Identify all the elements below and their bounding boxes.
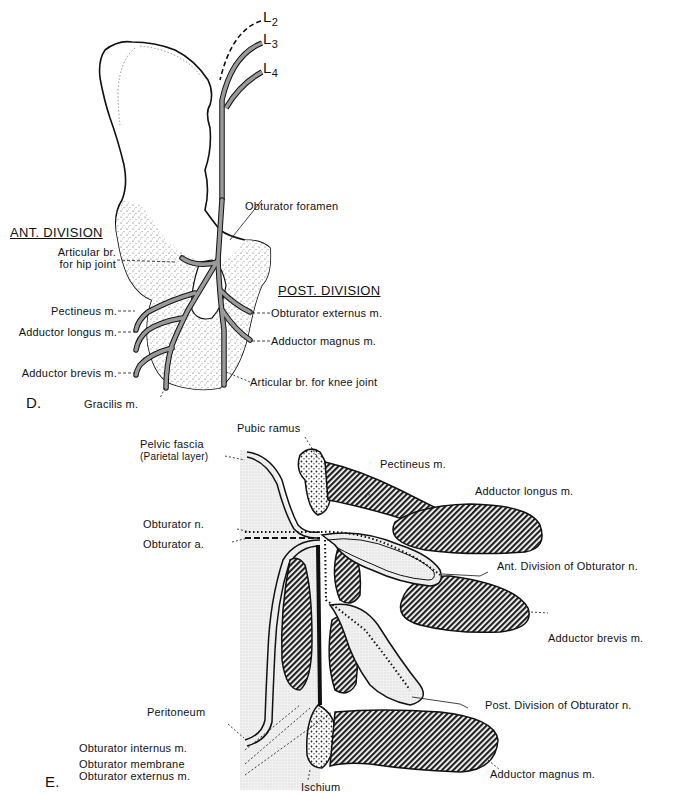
obturator-artery-label: Obturator a. <box>143 538 204 550</box>
articular-knee-branch-label: Articular br. for knee joint <box>250 376 377 388</box>
gracilis-branch-label: Gracilis m. <box>84 398 138 410</box>
ischium-label: Ischium <box>301 781 340 793</box>
root-l4-label: L4 <box>263 62 278 79</box>
root-l2-label: L2 <box>263 11 278 28</box>
obturator-externus-branch-label: Obturator externus m. <box>271 307 382 319</box>
ant-division-obturator-label: Ant. Division of Obturator n. <box>497 560 638 572</box>
post-division-obturator-label: Post. Division of Obturator n. <box>485 699 632 711</box>
panel-e-label: E. <box>45 776 60 788</box>
articular-hip-label-line2: for hip joint <box>39 258 116 270</box>
obturator-nerve-label: Obturator n. <box>143 518 204 530</box>
panel-d-label: D. <box>26 397 41 409</box>
adductor-brevis-label: Adductor brevis m. <box>548 632 643 644</box>
pelvic-fascia-label-line2: (Parietal layer) <box>140 451 208 463</box>
pectineus-label: Pectineus m. <box>380 458 446 470</box>
pectineus-branch-label: Pectineus m. <box>10 305 117 317</box>
adductor-brevis-branch-label: Adductor brevis m. <box>5 367 117 379</box>
adductor-longus-branch-label: Adductor longus m. <box>5 326 117 338</box>
obturator-externus-label: Obturator externus m. <box>79 770 190 782</box>
pelvic-fascia-label-line1: Pelvic fascia <box>140 438 204 450</box>
obturator-foramen-label: Obturator foramen <box>245 200 338 212</box>
obturator-membrane-label: Obturator membrane <box>79 758 185 770</box>
ant-division-heading: ANT. DIVISION <box>10 227 103 239</box>
root-l3-label: L3 <box>263 33 278 50</box>
adductor-magnus-label: Adductor magnus m. <box>490 768 595 780</box>
obturator-internus-label: Obturator internus m. <box>79 742 187 754</box>
adductor-magnus-branch-label: Adductor magnus m. <box>271 335 376 347</box>
pubic-ramus-label: Pubic ramus <box>237 422 300 434</box>
anatomy-illustration <box>0 0 687 794</box>
post-division-heading: POST. DIVISION <box>278 285 380 297</box>
peritoneum-label: Peritoneum <box>147 706 205 718</box>
adductor-longus-label: Adductor longus m. <box>475 485 573 497</box>
articular-hip-label-line1: Articular br. <box>39 246 116 258</box>
